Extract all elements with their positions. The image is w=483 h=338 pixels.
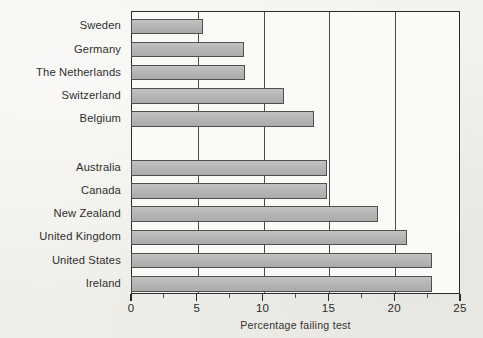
bar-united-states [131,253,432,269]
bar-canada [131,183,327,199]
bar-australia [131,160,327,176]
x-tick-label-5: 5 [193,302,200,314]
x-tick-label-10: 10 [256,302,269,314]
x-tick-10 [262,294,263,301]
x-tick-15 [328,294,329,301]
x-tick-label-20: 20 [387,302,400,314]
y-label-australia: Australia [76,162,121,173]
bar-switzerland [131,88,284,104]
x-tick-25 [459,294,460,301]
bar-ireland [131,276,432,292]
x-tick-label-0: 0 [128,302,135,314]
x-minor-tick-2.5 [163,294,164,298]
x-tick-0 [130,294,131,301]
y-label-united-kingdom: United Kingdom [39,231,121,242]
y-label-switzerland: Switzerland [62,90,121,101]
x-tick-label-25: 25 [453,302,466,314]
x-tick-20 [394,294,395,301]
chart-page: SwedenGermanyThe NetherlandsSwitzerlandB… [0,0,483,338]
x-axis-title: Percentage failing test [131,319,460,331]
x-tick-5 [196,294,197,301]
x-axis: 0510152025 [131,294,460,304]
y-label-new-zealand: New Zealand [53,208,121,219]
y-label-belgium: Belgium [80,113,121,124]
y-label-germany: Germany [74,44,121,55]
bar-sweden [131,19,203,35]
bar-new-zealand [131,206,378,222]
bar-the-netherlands [131,65,245,81]
y-label-canada: Canada [81,185,121,196]
y-axis-labels: SwedenGermanyThe NetherlandsSwitzerlandB… [0,11,126,294]
bars-layer [131,11,460,294]
bar-belgium [131,111,314,127]
bar-united-kingdom [131,230,407,246]
y-label-sweden: Sweden [80,20,121,31]
x-minor-tick-22.5 [427,294,428,298]
x-minor-tick-12.5 [295,294,296,298]
y-label-the-netherlands: The Netherlands [36,67,121,78]
x-minor-tick-7.5 [229,294,230,298]
bar-germany [131,42,244,58]
y-label-ireland: Ireland [86,278,121,289]
x-minor-tick-17.5 [361,294,362,298]
x-tick-label-15: 15 [322,302,335,314]
y-label-united-states: United States [52,255,121,266]
